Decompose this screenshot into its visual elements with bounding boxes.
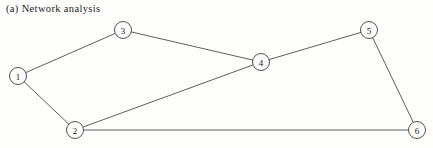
graph-node-5[interactable]: 5 <box>361 22 378 39</box>
graph-edge-3-4 <box>131 32 252 60</box>
graph-node-3[interactable]: 3 <box>115 22 132 39</box>
graph-node-label-4: 4 <box>259 58 264 68</box>
graph-node-6[interactable]: 6 <box>409 122 426 139</box>
graph-node-label-5: 5 <box>367 26 372 36</box>
network-analysis-figure: (a) Network analysis 123456 <box>0 0 433 148</box>
graph-edge-2-4 <box>83 65 253 127</box>
graph-edge-4-5 <box>269 32 361 59</box>
network-graph: 123456 <box>0 0 433 148</box>
graph-node-label-2: 2 <box>73 126 78 136</box>
graph-node-2[interactable]: 2 <box>67 122 84 139</box>
graph-edge-1-3 <box>26 33 115 72</box>
node-layer: 123456 <box>10 22 426 139</box>
edge-layer <box>24 32 413 130</box>
graph-edge-1-2 <box>24 82 69 124</box>
graph-edge-5-6 <box>373 38 414 123</box>
graph-node-4[interactable]: 4 <box>253 54 270 71</box>
graph-node-1[interactable]: 1 <box>10 68 27 85</box>
graph-node-label-3: 3 <box>121 26 126 36</box>
graph-node-label-6: 6 <box>415 126 420 136</box>
graph-node-label-1: 1 <box>16 72 21 82</box>
